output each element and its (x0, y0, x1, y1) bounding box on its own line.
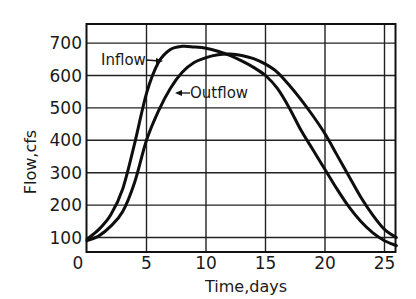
y-tick-label: 700 (50, 33, 82, 53)
x-tick-label: 5 (141, 253, 152, 273)
x-tick-label: 25 (374, 253, 396, 273)
x-tick-label: 10 (195, 253, 217, 273)
inflow-annotation: Inflow (101, 51, 163, 69)
x-origin-label: 0 (73, 253, 84, 273)
x-axis-ticks: 510152025 (141, 253, 395, 273)
y-tick-label: 500 (50, 98, 82, 118)
y-tick-label: 100 (50, 228, 82, 248)
x-tick-label: 15 (255, 253, 277, 273)
outflow-annotation: Outflow (175, 84, 248, 102)
x-tick-label: 20 (314, 253, 336, 273)
y-axis-ticks: 100200300400500600700 (50, 33, 82, 247)
y-axis-label: Flow,cfs (21, 130, 40, 194)
outflow-label: Outflow (190, 84, 248, 102)
y-tick-label: 300 (50, 163, 82, 183)
y-tick-label: 400 (50, 130, 82, 150)
flow-hydrograph-chart: 510152025 100200300400500600700 0 Time,d… (0, 0, 416, 299)
x-axis-label: Time,days (204, 277, 287, 296)
y-tick-label: 600 (50, 66, 82, 86)
y-tick-label: 200 (50, 195, 82, 215)
inflow-label: Inflow (101, 51, 146, 69)
